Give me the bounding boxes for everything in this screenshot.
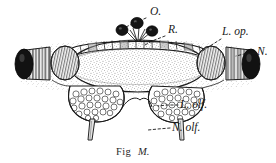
optic-nerve-cut-end-left	[15, 49, 33, 79]
label-rind: R.	[167, 23, 178, 35]
olfactory-nerve-left	[88, 119, 95, 140]
label-optic-lobe: L. op.	[221, 25, 249, 38]
label-olfactory-lobe: L. olf.	[179, 98, 207, 111]
brain-anatomy-illustration: O. R. L. op. N. L. olf. N. olf. Fig M.	[0, 0, 276, 163]
label-optic-nerve: N.	[256, 45, 268, 57]
optic-lobe-right	[197, 46, 225, 80]
optic-nerve-right	[226, 47, 260, 80]
label-ocelli: O.	[150, 5, 161, 17]
figure-caption: Fig M.	[116, 146, 149, 157]
figure-container: O. R. L. op. N. L. olf. N. olf. Fig M.	[0, 0, 276, 163]
optic-lobe-left	[51, 46, 79, 80]
ocellus-right	[146, 26, 158, 36]
caption-id: M.	[137, 146, 149, 157]
optic-nerve-left	[15, 47, 50, 80]
leader-olfactory-nerve	[148, 128, 170, 130]
ocellus-left	[116, 25, 128, 36]
caption-prefix: Fig	[116, 146, 132, 157]
ocellus-center	[131, 17, 143, 28]
label-olfactory-nerve: N. olf.	[171, 121, 200, 134]
